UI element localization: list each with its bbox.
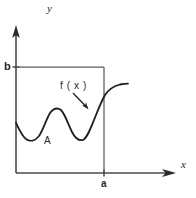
function-curve: [16, 84, 128, 141]
diagram-canvas: [0, 0, 196, 198]
callout-arrow-line: [73, 93, 86, 106]
right-bound-label: a: [101, 179, 107, 189]
y-axis-label: y: [47, 3, 52, 14]
region-label: A: [44, 136, 51, 146]
function-diagram: y x b a A f ( x ): [0, 0, 196, 198]
function-label: f ( x ): [60, 81, 87, 91]
upper-bound-label: b: [4, 61, 11, 72]
x-axis-label: x: [181, 159, 186, 170]
